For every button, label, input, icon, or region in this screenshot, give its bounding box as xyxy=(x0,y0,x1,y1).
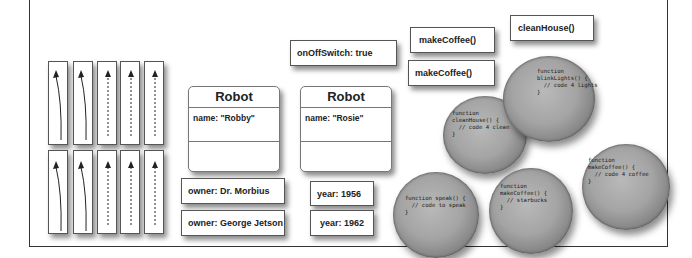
arrow-card-solid xyxy=(73,150,93,234)
owner-jetson-label: owner: George Jetson xyxy=(181,210,285,236)
arrow-card-dashed xyxy=(120,150,140,234)
clean-house-label: cleanHouse() xyxy=(510,15,594,41)
curved-arrow-icon xyxy=(49,151,69,235)
make-coffee-label-2: makeCoffee() xyxy=(408,60,495,86)
make-coffee-function-blob: function makeCoffee() { // code 4 coffee… xyxy=(582,144,670,230)
arrow-card-solid xyxy=(48,150,68,234)
robot-title: Robot xyxy=(189,87,279,108)
robot-card-robby: Robot name: "Robby" xyxy=(188,86,280,172)
make-coffee-label-1: makeCoffee() xyxy=(410,27,495,53)
function-code: function makeCoffee() { // starbucks } xyxy=(500,183,547,211)
curved-arrow-icon xyxy=(74,62,94,146)
curved-arrow-icon xyxy=(74,151,94,235)
speak-function-blob: function speak() { // code to speak } xyxy=(393,172,479,258)
frame-bottom-border xyxy=(29,246,668,247)
robot-name-attr: name: "Rosie" xyxy=(301,108,391,142)
frame-left-border xyxy=(29,0,30,247)
function-code: function makeCoffee() { // code 4 coffee… xyxy=(588,157,649,185)
arrow-card-dashed xyxy=(144,61,164,145)
function-code: function speak() { // code to speak } xyxy=(405,195,466,216)
dashed-arrow-icon xyxy=(145,151,165,235)
arrow-card-dashed xyxy=(97,61,117,145)
robot-title: Robot xyxy=(301,87,391,108)
dashed-arrow-icon xyxy=(98,151,118,235)
owner-morbius-label: owner: Dr. Morbius xyxy=(181,178,285,204)
function-code: function blinkLights() { // code 4 light… xyxy=(537,68,598,96)
year-1956-label: year: 1956 xyxy=(310,181,374,206)
arrow-card-dashed xyxy=(97,150,117,234)
year-1962-label: year: 1962 xyxy=(310,210,374,236)
function-code: function cleanHouse() { // code 4 clean … xyxy=(452,110,509,138)
frame-right-border xyxy=(667,0,668,247)
dashed-arrow-icon xyxy=(121,62,141,146)
robot-card-rosie: Robot name: "Rosie" xyxy=(300,86,392,172)
arrow-card-solid xyxy=(48,61,68,145)
arrow-card-dashed xyxy=(144,150,164,234)
on-off-switch-label: onOffSwitch: true xyxy=(290,40,397,66)
blink-lights-function-blob: function blinkLights() { // code 4 light… xyxy=(503,56,595,142)
robot-name-attr: name: "Robby" xyxy=(189,108,279,142)
dashed-arrow-icon xyxy=(98,62,118,146)
dashed-arrow-icon xyxy=(145,62,165,146)
arrow-card-solid xyxy=(73,61,93,145)
dashed-arrow-icon xyxy=(121,151,141,235)
curved-arrow-icon xyxy=(49,62,69,146)
starbucks-function-blob: function makeCoffee() { // starbucks } xyxy=(489,168,573,254)
arrow-card-dashed xyxy=(120,61,140,145)
